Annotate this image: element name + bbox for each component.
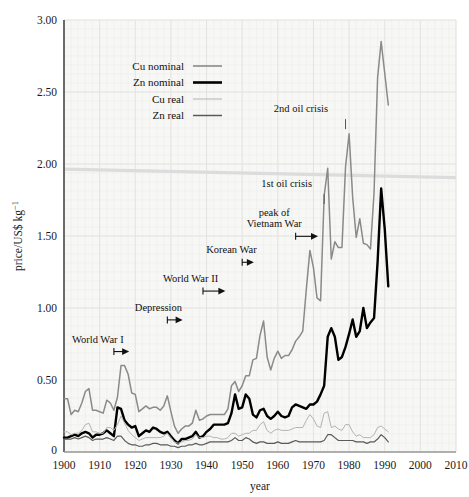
chart-figure: 1900191019201930194019501960197019801990… <box>0 0 469 497</box>
annotation-label: 2nd oil crisis <box>274 103 328 114</box>
x-tick-label: 1940 <box>195 459 218 471</box>
x-tick-label: 1980 <box>338 459 361 471</box>
x-tick-label: 1930 <box>159 459 182 471</box>
x-tick-label: 1920 <box>124 459 147 471</box>
y-tick-label: 2.50 <box>37 86 57 98</box>
x-tick-label: 2000 <box>409 459 432 471</box>
annotation-label: Vietnam War <box>247 218 303 229</box>
annotation-label: Depression <box>135 302 183 313</box>
x-tick-label: 2010 <box>445 459 468 471</box>
legend-label-zn-nominal: Zn nominal <box>133 76 184 88</box>
x-tick-label: 1910 <box>88 459 111 471</box>
y-tick-label: 1.50 <box>37 230 57 242</box>
x-tick-label: 1970 <box>302 459 325 471</box>
annotation-label: World War I <box>72 334 124 345</box>
annotation-label: Korean War <box>206 244 257 255</box>
y-tick-label: 2.00 <box>37 158 57 170</box>
x-tick-label: 1990 <box>373 459 396 471</box>
x-tick-label: 1960 <box>266 459 289 471</box>
x-axis-title: year <box>250 480 270 493</box>
annotation-label: World War II <box>163 273 219 284</box>
y-axis-title-text: price/US$ kg−1 <box>10 201 25 271</box>
y-axis-title-exponent: −1 <box>10 201 20 210</box>
legend-label-cu-nominal: Cu nominal <box>132 60 184 72</box>
y-axis-title: price/US$ kg−1 <box>10 201 25 271</box>
price-history-line-chart: 1900191019201930194019501960197019801990… <box>0 0 469 497</box>
annotation-label: peak of <box>259 207 291 218</box>
x-tick-label: 1950 <box>231 459 254 471</box>
annotation-label: 1st oil crisis <box>261 178 312 189</box>
legend-label-cu-real: Cu real <box>152 93 184 105</box>
y-tick-label: 0.50 <box>37 374 57 386</box>
legend-label-zn-real: Zn real <box>153 109 184 121</box>
y-tick-label: 0 <box>51 444 57 456</box>
y-tick-label: 3.00 <box>37 14 57 26</box>
x-tick-label: 1900 <box>53 459 76 471</box>
y-tick-label: 1.00 <box>37 302 57 314</box>
